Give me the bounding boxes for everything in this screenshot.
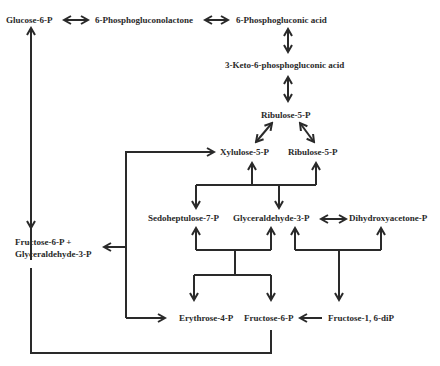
- node-glyceraldehyde-3-p: Glyceraldehyde-3-P: [233, 213, 309, 224]
- node-dihydroxyacetone-p: Dihydroxyacetone-P: [349, 213, 427, 224]
- node-glyceraldehyde-3-p-left: Glyceraldehyde-3-P: [15, 249, 91, 260]
- node-6-phosphogluconic-acid: 6-Phosphogluconic acid: [236, 15, 327, 26]
- node-erythrose-4-p: Erythrose-4-P: [179, 313, 233, 324]
- node-6-phosphogluconolactone: 6-Phosphogluconolactone: [95, 15, 193, 26]
- node-glucose-6-p: Glucose-6-P: [6, 15, 53, 26]
- node-3-keto-6-phosphogluconic-acid: 3-Keto-6-phosphogluconic acid: [225, 60, 344, 71]
- node-fructose-1-6-dip: Fructose-1, 6-diP: [328, 313, 394, 324]
- pathway-diagram: Glucose-6-P 6-Phosphogluconolactone 6-Ph…: [0, 0, 440, 366]
- node-ribulose-5-p-top: Ribulose-5-P: [261, 110, 311, 121]
- arrows-layer: [0, 0, 440, 366]
- node-xylulose-5-p: Xylulose-5-P: [220, 147, 269, 158]
- node-ribulose-5-p: Ribulose-5-P: [288, 147, 338, 158]
- node-sedoheptulose-7-p: Sedoheptulose-7-P: [148, 213, 219, 224]
- node-fructose-6-p-plus: Fructose-6-P +: [15, 237, 71, 248]
- node-fructose-6-p: Fructose-6-P: [244, 313, 293, 324]
